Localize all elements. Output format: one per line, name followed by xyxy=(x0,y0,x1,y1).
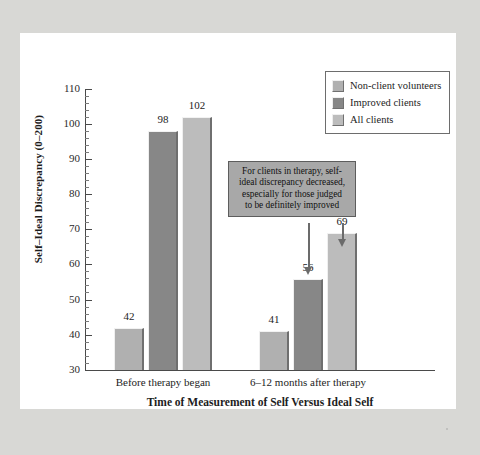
x-group-label-before: Before therapy began xyxy=(83,376,243,388)
annotation-arrow-to-56 xyxy=(304,223,313,275)
x-group-label-after: 6–12 months after therapy xyxy=(228,376,388,388)
callout-line-2: ideal discrepancy decreased, xyxy=(234,177,350,188)
y-minor-tick xyxy=(85,292,89,293)
annotation-callout: For clients in therapy, self- ideal disc… xyxy=(228,161,356,217)
y-minor-tick xyxy=(85,285,89,286)
legend-label-all-clients: All clients xyxy=(350,114,393,125)
y-minor-tick xyxy=(85,103,89,104)
bar-before-non-client-volunteers[interactable] xyxy=(114,328,144,370)
y-minor-tick xyxy=(85,187,89,188)
y-minor-tick xyxy=(85,356,89,357)
figure-root: 110 100 90 80 70 60 50 40 30 xyxy=(0,0,480,455)
y-minor-tick xyxy=(85,363,89,364)
y-tick-label-30: 30 xyxy=(40,364,80,375)
legend-label-improved-clients: Improved clients xyxy=(350,97,421,108)
y-minor-tick xyxy=(85,145,89,146)
bar-before-all-clients[interactable] xyxy=(182,117,212,370)
legend-swatch-icon xyxy=(332,114,344,126)
y-minor-tick xyxy=(85,152,89,153)
bar-after-all-clients[interactable] xyxy=(327,233,357,370)
y-tick-label-110: 110 xyxy=(40,83,80,94)
y-tick-80 xyxy=(85,194,92,195)
y-minor-tick xyxy=(85,271,89,272)
y-minor-tick xyxy=(85,208,89,209)
y-minor-tick xyxy=(85,215,89,216)
y-tick-60 xyxy=(85,264,92,265)
plot-area: 110 100 90 80 70 60 50 40 30 xyxy=(20,33,456,409)
y-minor-tick xyxy=(85,138,89,139)
y-tick-label-100: 100 xyxy=(40,118,80,129)
y-tick-label-40: 40 xyxy=(40,329,80,340)
y-minor-tick xyxy=(85,321,89,322)
y-minor-tick xyxy=(85,349,89,350)
y-minor-tick xyxy=(85,117,89,118)
y-minor-tick xyxy=(85,222,89,223)
callout-line-4: to be definitely improved xyxy=(234,200,350,211)
legend-swatch-icon xyxy=(332,97,344,109)
y-minor-tick xyxy=(85,243,89,244)
legend-label-non-client-volunteers: Non-client volunteers xyxy=(350,80,441,91)
chart-panel: 110 100 90 80 70 60 50 40 30 xyxy=(20,33,456,409)
legend-swatch-icon xyxy=(332,80,344,92)
y-minor-tick xyxy=(85,342,89,343)
y-tick-100 xyxy=(85,124,92,125)
y-minor-tick xyxy=(85,96,89,97)
bar-value-41: 41 xyxy=(254,314,294,325)
y-tick-label-70: 70 xyxy=(40,223,80,234)
y-minor-tick xyxy=(85,278,89,279)
y-minor-tick xyxy=(85,201,89,202)
y-tick-label-50: 50 xyxy=(40,294,80,305)
y-tick-label-80: 80 xyxy=(40,188,80,199)
x-axis-title: Time of Measurement of Self Versus Ideal… xyxy=(85,396,435,408)
callout-line-3: especially for those judged xyxy=(234,189,350,200)
bar-value-42: 42 xyxy=(109,311,149,322)
y-axis-title: Self–Ideal Discrepancy (0–200) xyxy=(32,89,44,289)
y-minor-tick xyxy=(85,314,89,315)
y-minor-tick xyxy=(85,307,89,308)
y-tick-label-60: 60 xyxy=(40,258,80,269)
legend-item-all-clients[interactable]: All clients xyxy=(332,111,443,128)
y-tick-90 xyxy=(85,159,92,160)
page-speck xyxy=(446,428,448,430)
y-tick-30 xyxy=(85,370,92,371)
y-tick-110 xyxy=(85,89,92,90)
y-minor-tick xyxy=(85,250,89,251)
y-minor-tick xyxy=(85,328,89,329)
bar-before-improved-clients[interactable] xyxy=(148,131,178,370)
y-minor-tick xyxy=(85,180,89,181)
y-minor-tick xyxy=(85,173,89,174)
chart-legend: Non-client volunteers Improved clients A… xyxy=(325,71,450,134)
y-tick-50 xyxy=(85,300,92,301)
bar-after-improved-clients[interactable] xyxy=(293,279,323,370)
y-minor-tick xyxy=(85,166,89,167)
y-minor-tick xyxy=(85,131,89,132)
bar-value-98: 98 xyxy=(143,114,183,125)
callout-line-1: For clients in therapy, self- xyxy=(234,166,350,177)
y-minor-tick xyxy=(85,110,89,111)
x-axis-line xyxy=(85,370,435,371)
bar-after-non-client-volunteers[interactable] xyxy=(259,331,289,370)
y-minor-tick xyxy=(85,257,89,258)
y-tick-label-90: 90 xyxy=(40,153,80,164)
y-minor-tick xyxy=(85,236,89,237)
y-tick-40 xyxy=(85,335,92,336)
legend-item-non-client-volunteers[interactable]: Non-client volunteers xyxy=(332,77,443,94)
y-tick-70 xyxy=(85,229,92,230)
annotation-arrow-to-69 xyxy=(338,223,347,247)
legend-item-improved-clients[interactable]: Improved clients xyxy=(332,94,443,111)
bar-value-102: 102 xyxy=(177,100,217,111)
